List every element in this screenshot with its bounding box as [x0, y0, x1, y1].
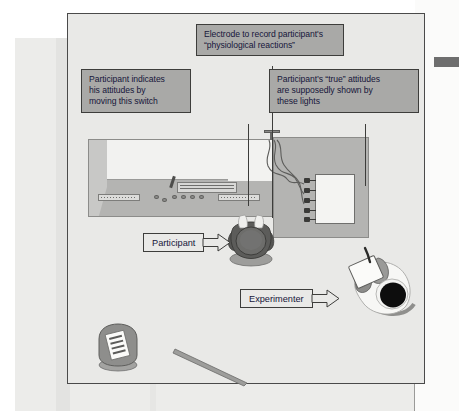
console-knob[interactable]	[199, 195, 204, 199]
console-knob[interactable]	[154, 195, 159, 199]
light-bulb-icon	[304, 178, 310, 183]
leader-line-lights	[365, 124, 366, 186]
chair-with-questionnaire	[92, 321, 144, 373]
light-bulb-icon	[304, 217, 310, 222]
callout-lights: Participant’s “true” attitudes are suppo…	[269, 69, 419, 113]
light-bulb-icon	[304, 208, 310, 213]
experimenter-figure	[348, 242, 426, 324]
leader-line-switch	[248, 124, 249, 206]
console-knob[interactable]	[181, 195, 186, 199]
pole-on-floor	[173, 346, 249, 386]
callout-electrode: Electrode to record participant's “physi…	[196, 24, 344, 56]
arrow-label-experimenter: Experimenter	[240, 289, 340, 308]
console-knob[interactable]	[162, 198, 167, 202]
console-slot-right	[218, 194, 260, 201]
callout-switch-line-1: Participant indicates	[89, 74, 184, 85]
arrow-right-icon	[312, 289, 340, 308]
arrow-right-icon	[203, 233, 231, 252]
lights-display-panel	[315, 174, 355, 224]
callout-lights-line-3: these lights	[277, 96, 412, 107]
callout-switch: Participant indicates his attitudes by m…	[81, 69, 191, 113]
arrow-label-participant: Participant	[143, 233, 231, 252]
arrow-label-experimenter-text: Experimenter	[249, 294, 304, 304]
arrow-label-participant-text: Participant	[152, 238, 195, 248]
callout-switch-line-3: moving this switch	[89, 96, 184, 107]
callout-electrode-line-1: Electrode to record participant's	[204, 29, 337, 40]
callout-electrode-line-2: “physiological reactions”	[204, 40, 337, 51]
arrow-label-experimenter-box: Experimenter	[240, 289, 313, 308]
callout-lights-line-1: Participant’s “true” attitudes	[277, 74, 412, 85]
console-knob[interactable]	[190, 195, 195, 199]
console-grille	[177, 182, 237, 193]
light-bulb-icon	[304, 198, 310, 203]
callout-lights-line-2: are supposedly shown by	[277, 85, 412, 96]
console-slot-left	[98, 194, 140, 201]
callout-switch-line-2: his attitudes by	[89, 85, 184, 96]
light-bulb-icon	[304, 188, 310, 193]
page-header-bar	[434, 57, 459, 67]
arrow-label-participant-box: Participant	[143, 233, 204, 252]
console-switch[interactable]	[172, 195, 177, 199]
